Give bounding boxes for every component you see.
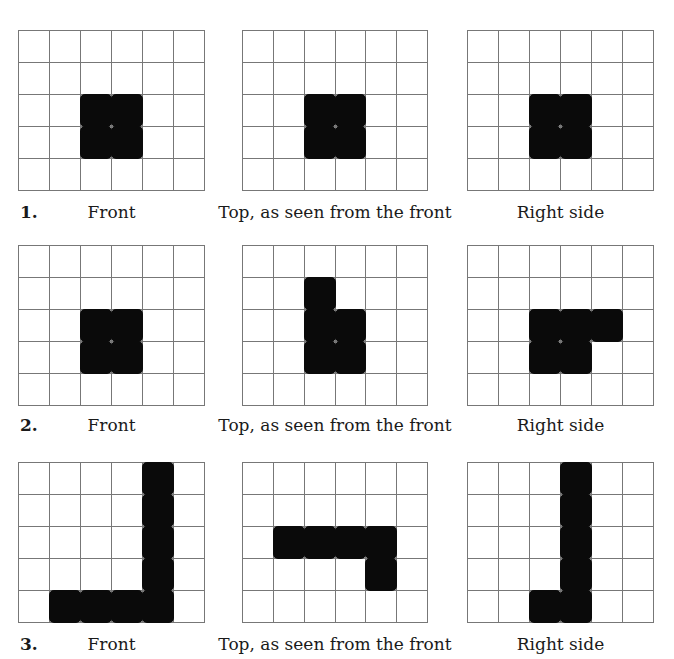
grid-cell bbox=[397, 463, 428, 495]
grid-cell bbox=[336, 246, 367, 278]
grid-cell bbox=[561, 246, 592, 278]
grid-cell bbox=[112, 159, 143, 191]
filled-cell bbox=[561, 591, 592, 623]
grid-cell bbox=[305, 591, 336, 623]
grid-cell bbox=[174, 374, 205, 406]
grid-cell bbox=[50, 527, 81, 559]
filled-cell bbox=[366, 527, 397, 559]
grid-cell bbox=[243, 527, 274, 559]
grid-cell bbox=[499, 310, 530, 342]
filled-cell bbox=[530, 591, 561, 623]
grid-cell bbox=[468, 95, 499, 127]
grid-cell bbox=[50, 95, 81, 127]
grid-cell bbox=[530, 31, 561, 63]
grid-cell bbox=[336, 31, 367, 63]
filled-cell bbox=[336, 127, 367, 159]
grid-cell bbox=[81, 463, 112, 495]
filled-cell bbox=[112, 95, 143, 127]
grid-cell bbox=[81, 559, 112, 591]
grid-cell bbox=[397, 63, 428, 95]
grid-cell bbox=[274, 559, 305, 591]
filled-cell bbox=[274, 527, 305, 559]
view-label: Top, as seen from the front bbox=[218, 415, 451, 435]
grid-cell bbox=[174, 246, 205, 278]
grid-cell bbox=[305, 31, 336, 63]
grid-cell bbox=[592, 342, 623, 374]
grid-cell bbox=[81, 246, 112, 278]
grid-cell bbox=[499, 159, 530, 191]
grid-cell bbox=[19, 63, 50, 95]
view-grid bbox=[467, 30, 654, 191]
grid-cell bbox=[50, 495, 81, 527]
grid-cell bbox=[50, 246, 81, 278]
grid-cell bbox=[50, 63, 81, 95]
grid-cell bbox=[499, 463, 530, 495]
grid-cell bbox=[174, 63, 205, 95]
grid-cell bbox=[50, 159, 81, 191]
grid-cell bbox=[499, 374, 530, 406]
grid-cell bbox=[366, 342, 397, 374]
grid-cell bbox=[592, 95, 623, 127]
grid-cell bbox=[81, 495, 112, 527]
grid-cell bbox=[397, 31, 428, 63]
grid-cell bbox=[174, 95, 205, 127]
grid-cell bbox=[336, 63, 367, 95]
grid-cell bbox=[623, 527, 654, 559]
grid-cell bbox=[623, 246, 654, 278]
grid-cell bbox=[623, 278, 654, 310]
grid-cell bbox=[336, 159, 367, 191]
view-grid bbox=[242, 462, 428, 623]
grid-cell bbox=[397, 495, 428, 527]
grid-cell bbox=[561, 159, 592, 191]
grid-cell bbox=[50, 278, 81, 310]
grid-cell bbox=[397, 310, 428, 342]
grid-cell bbox=[19, 527, 50, 559]
grid-cell bbox=[19, 495, 50, 527]
grid-cell bbox=[561, 31, 592, 63]
grid-cell bbox=[143, 63, 174, 95]
view-label: Top, as seen from the front bbox=[218, 634, 451, 654]
grid-cell bbox=[623, 463, 654, 495]
grid-cell bbox=[468, 463, 499, 495]
problem-number: 2. bbox=[20, 415, 38, 435]
view-grid bbox=[242, 245, 428, 406]
grid-cell bbox=[243, 31, 274, 63]
grid-cell bbox=[530, 63, 561, 95]
grid-cell bbox=[243, 127, 274, 159]
grid-cell bbox=[112, 559, 143, 591]
grid-cell bbox=[174, 591, 205, 623]
grid-cell bbox=[50, 127, 81, 159]
grid-cell bbox=[397, 374, 428, 406]
filled-cell bbox=[112, 127, 143, 159]
grid-cell bbox=[530, 246, 561, 278]
filled-cell bbox=[81, 310, 112, 342]
grid-cell bbox=[468, 495, 499, 527]
grid-cell bbox=[81, 527, 112, 559]
grid-cell bbox=[174, 559, 205, 591]
filled-cell bbox=[530, 95, 561, 127]
filled-cell bbox=[336, 95, 367, 127]
grid-cell bbox=[19, 342, 50, 374]
grid-cell bbox=[243, 374, 274, 406]
filled-cell bbox=[143, 591, 174, 623]
filled-cell bbox=[81, 591, 112, 623]
grid-cell bbox=[592, 527, 623, 559]
grid-cell bbox=[81, 159, 112, 191]
grid-cell bbox=[397, 591, 428, 623]
grid-cell bbox=[143, 278, 174, 310]
grid-cell bbox=[143, 310, 174, 342]
grid-cell bbox=[397, 527, 428, 559]
view-label: Front bbox=[88, 634, 136, 654]
grid-cell bbox=[397, 246, 428, 278]
grid-cell bbox=[530, 374, 561, 406]
grid-cell bbox=[243, 310, 274, 342]
filled-cell bbox=[561, 95, 592, 127]
grid-cell bbox=[468, 374, 499, 406]
grid-cell bbox=[143, 95, 174, 127]
grid-cell bbox=[19, 463, 50, 495]
grid-cell bbox=[274, 591, 305, 623]
filled-cell bbox=[305, 310, 336, 342]
grid-cell bbox=[50, 559, 81, 591]
grid-cell bbox=[174, 31, 205, 63]
grid-cell bbox=[174, 278, 205, 310]
